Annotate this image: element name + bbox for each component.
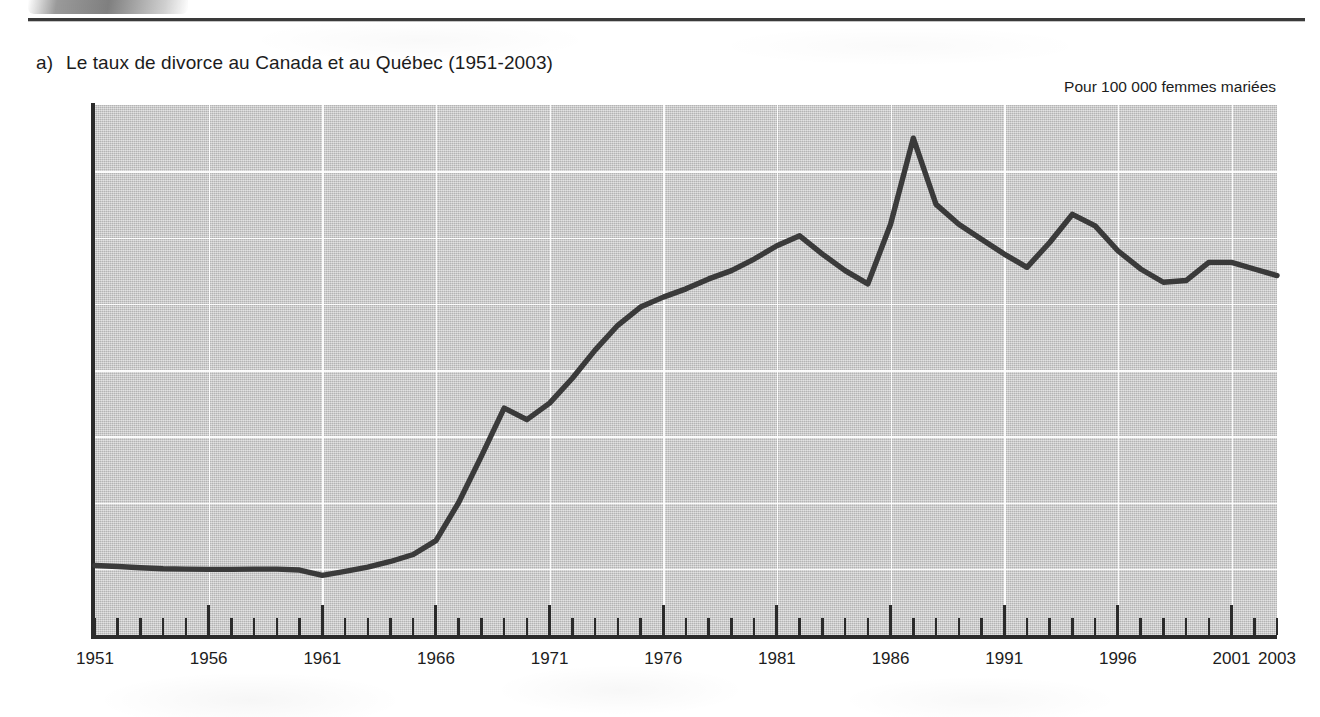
x-axis-tick-label: 1991: [985, 649, 1023, 669]
line-chart: 02004006008001 0001 2001 4001 600 195119…: [95, 105, 1277, 635]
x-axis-tick-label: 1996: [1099, 649, 1137, 669]
x-axis-tick-label: 1951: [76, 649, 114, 669]
x-axis-tick-label: 1981: [758, 649, 796, 669]
unit-caption: Pour 100 000 femmes mariées: [1064, 78, 1276, 96]
x-axis-tick-label: 1971: [531, 649, 569, 669]
x-axis-tick-label: 1956: [190, 649, 228, 669]
x-axis-tick-label: 2001: [1213, 649, 1251, 669]
x-axis-tick-label: 1966: [417, 649, 455, 669]
figure-marker: a): [36, 52, 66, 74]
figure-title: a)Le taux de divorce au Canada et au Qué…: [36, 52, 553, 74]
x-axis-tick-label: 1961: [303, 649, 341, 669]
x-axis-line: [91, 635, 1277, 639]
data-series-line: [95, 105, 1277, 635]
x-axis-tick-label: 2003: [1258, 649, 1296, 669]
x-axis-tick-label: 1976: [644, 649, 682, 669]
header-rule: [28, 18, 1305, 21]
x-axis-tick-label: 1986: [872, 649, 910, 669]
scan-smudge: [28, 0, 188, 14]
figure-title-text: Le taux de divorce au Canada et au Québe…: [66, 52, 553, 73]
